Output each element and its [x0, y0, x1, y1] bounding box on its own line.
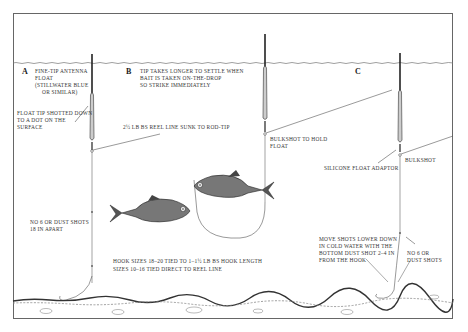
float-tip-note-line3: surface — [17, 124, 43, 131]
dust-shots-note-line2: 18 in apart — [30, 226, 63, 233]
panel-c-letter: C — [355, 67, 361, 76]
float-c-icon — [398, 53, 402, 156]
reel-line-note: 2½ lb bs reel line sunk to rod-tip — [123, 124, 230, 131]
bulkshot-note: Bulkshot — [405, 157, 436, 164]
float-b-icon — [263, 34, 267, 135]
water-surface — [13, 63, 453, 64]
river-bed — [13, 283, 453, 314]
fish-icon — [194, 170, 274, 199]
c-dust-shots-note-line2: dust shots — [407, 257, 442, 264]
fish-icon — [110, 195, 190, 222]
antenna-float-note-line4: or similar) — [42, 89, 78, 96]
hook-size-note-line1: Hook sizes 18–20 tied to 1–1½ lb bs hook… — [113, 258, 262, 265]
panel-b-letter: B — [126, 67, 131, 76]
tip-settle-note-line3: so strike immediately — [140, 82, 211, 89]
silicone-adaptor-note: Silicone float adaptor — [324, 165, 399, 172]
move-shots-note-line4: from the hook — [319, 257, 366, 264]
bulkshot-hold-note-line2: float — [270, 143, 288, 150]
panel-a-letter: A — [22, 67, 28, 76]
hook-size-note-line2: sizes 10–16 tied direct to reel line — [113, 266, 222, 273]
float-a-icon — [90, 54, 94, 152]
